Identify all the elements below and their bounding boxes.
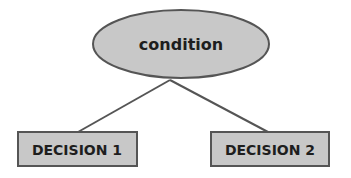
condition-node: condition [93, 10, 269, 78]
decision-1-node: DECISION 1 [18, 132, 137, 166]
decision-1-label: DECISION 1 [32, 142, 122, 158]
edge-condition-to-decision-2 [170, 80, 268, 132]
decision-diagram: condition DECISION 1 DECISION 2 [0, 0, 351, 178]
decision-2-label: DECISION 2 [225, 142, 315, 158]
condition-label: condition [139, 35, 223, 54]
decision-2-node: DECISION 2 [211, 132, 329, 166]
edge-condition-to-decision-1 [78, 80, 170, 132]
